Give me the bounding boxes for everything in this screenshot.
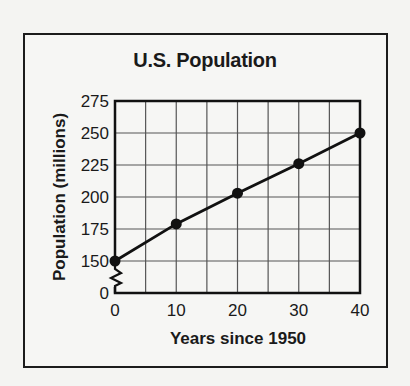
y-tick-label: 250 [81,124,109,143]
data-point [293,158,304,169]
x-tick-label: 0 [110,301,119,320]
data-point [232,188,243,199]
y-tick-label: 0 [100,284,109,303]
y-tick-label: 225 [81,156,109,175]
y-tick-label: 275 [81,92,109,111]
plot-area: 0102030400150175200225250275 [0,0,410,386]
x-tick-label: 40 [351,301,370,320]
y-tick-label: 175 [81,220,109,239]
y-tick-label: 200 [81,188,109,207]
data-point [355,128,366,139]
axis-break-icon [111,265,121,293]
data-point [171,218,182,229]
y-tick-label: 150 [81,252,109,271]
tick-labels: 0102030400150175200225250275 [81,92,370,320]
x-tick-label: 30 [289,301,308,320]
x-tick-label: 20 [228,301,247,320]
x-tick-label: 10 [167,301,186,320]
data-point [110,256,121,267]
